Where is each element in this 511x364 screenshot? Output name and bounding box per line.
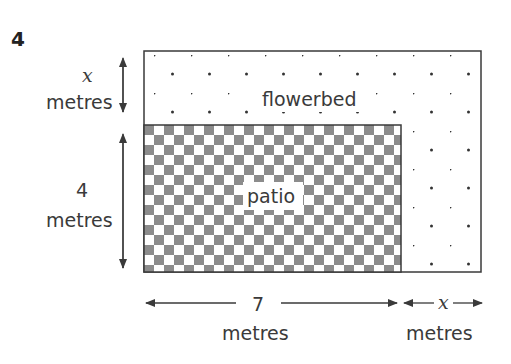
top-strip-unit: metres bbox=[46, 91, 113, 113]
patio-height-unit: metres bbox=[46, 209, 113, 231]
patio-width-unit: metres bbox=[222, 322, 289, 344]
garden-diagram: 4 flowerbed patio x metres 4 metres 7 me… bbox=[0, 0, 511, 364]
flowerbed-label: flowerbed bbox=[262, 88, 356, 110]
patio-width-value: 7 bbox=[252, 293, 264, 315]
patio-label: patio bbox=[247, 185, 295, 207]
question-number: 4 bbox=[11, 27, 25, 51]
side-strip-value: x bbox=[438, 291, 449, 313]
top-strip-value: x bbox=[82, 64, 93, 86]
patio-height-value: 4 bbox=[76, 179, 88, 201]
side-strip-unit: metres bbox=[406, 322, 473, 344]
